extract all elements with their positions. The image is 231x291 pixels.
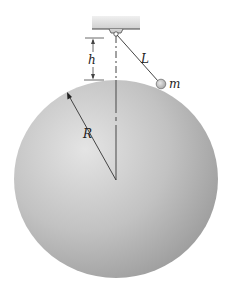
ceiling-support — [92, 16, 140, 36]
pendulum-sphere-diagram: L m h R — [0, 0, 231, 291]
pendulum-mass — [156, 79, 166, 89]
pendulum-string — [117, 35, 158, 81]
label-mass: m — [169, 77, 180, 91]
label-length: L — [140, 52, 149, 66]
label-radius: R — [82, 127, 92, 141]
label-height: h — [88, 53, 96, 67]
